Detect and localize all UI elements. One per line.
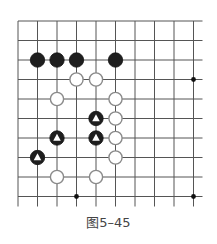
black-stone [50, 131, 64, 145]
white-stone [50, 170, 63, 183]
black-stone [30, 53, 44, 67]
black-stone-icon [30, 53, 44, 67]
star-point [191, 77, 196, 82]
white-stone-icon [89, 170, 102, 183]
black-stone [69, 53, 83, 67]
white-stone-icon [50, 170, 63, 183]
black-stone [108, 53, 122, 67]
black-stone-icon [50, 53, 64, 67]
black-stone [89, 131, 103, 145]
white-stone-icon [109, 112, 122, 125]
black-stone [30, 150, 44, 164]
star-point [191, 194, 196, 199]
go-board [0, 0, 217, 244]
black-stone [89, 111, 103, 125]
white-stone-icon [109, 151, 122, 164]
black-stone [50, 53, 64, 67]
white-stone-icon [50, 92, 63, 105]
white-stone [70, 73, 83, 86]
star-point [74, 194, 79, 199]
white-stone-icon [89, 73, 102, 86]
white-stone [109, 131, 122, 144]
white-stone-icon [109, 131, 122, 144]
white-stone [50, 92, 63, 105]
black-stone-icon [69, 53, 83, 67]
white-stone [89, 73, 102, 86]
black-stone-icon [108, 53, 122, 67]
white-stone [109, 151, 122, 164]
white-stone-icon [70, 73, 83, 86]
figure-caption: 图5–45 [0, 212, 217, 231]
white-stone [109, 112, 122, 125]
white-stone-icon [109, 92, 122, 105]
white-stone [89, 170, 102, 183]
white-stone [109, 92, 122, 105]
